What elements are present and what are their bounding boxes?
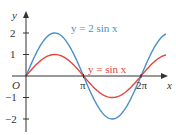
x-tick-label-2pi: 2π [136, 79, 148, 91]
x-axis-label: x [166, 79, 172, 91]
legend-2sinx: y = 2 sin x [71, 22, 118, 34]
y-axis-arrow-icon [23, 11, 29, 18]
x-tick-label-pi: π [80, 79, 86, 91]
legend-sinx: y = sin x [88, 63, 127, 75]
y-axis-label: y [11, 9, 17, 21]
y-tick-label-m2: −2 [5, 113, 17, 125]
y-tick-label-2: 2 [10, 27, 16, 39]
y-tick-label-m1: −1 [5, 91, 17, 103]
origin-label: O [12, 79, 20, 91]
y-tick-label-1: 1 [10, 48, 16, 60]
sine-chart: y 2 1 O −1 −2 π 2π x y = 2 sin x y = sin… [0, 0, 176, 135]
